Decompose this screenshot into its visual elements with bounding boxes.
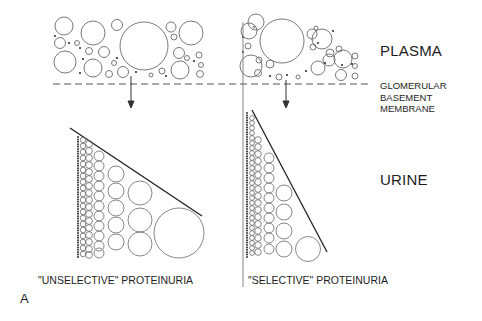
arrow-icon-left bbox=[128, 76, 134, 108]
panel-letter: A bbox=[20, 291, 29, 306]
plasma-proteins-left bbox=[54, 14, 358, 81]
unselective-sieving-line bbox=[70, 128, 202, 216]
unselective-protein-distribution bbox=[77, 136, 204, 258]
selective-protein-distribution bbox=[246, 112, 321, 262]
membrane-label: GLOMERULAR BASEMENT MEMBRANE bbox=[380, 80, 447, 115]
urine-label: URINE bbox=[380, 171, 428, 188]
plasma-label: PLASMA bbox=[380, 42, 442, 59]
membrane-label-line1: GLOMERULAR bbox=[380, 80, 447, 92]
selective-sieving-line bbox=[252, 110, 327, 252]
selective-caption: "SELECTIVE" PROTEINURIA bbox=[248, 274, 388, 286]
unselective-caption: "UNSELECTIVE" PROTEINURIA bbox=[38, 274, 193, 286]
membrane-label-line2: BASEMENT bbox=[380, 92, 447, 104]
membrane-label-line3: MEMBRANE bbox=[380, 103, 447, 115]
